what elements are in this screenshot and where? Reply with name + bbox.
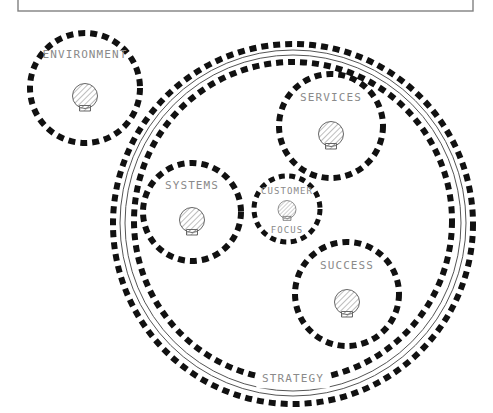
- strategy-venn-diagram: STRATEGY ENVIRONMENTSERVICESSYSTEMSCUSTO…: [0, 0, 493, 413]
- node-services[interactable]: SERVICES: [279, 74, 383, 178]
- node-success-label: SUCCESS: [320, 259, 374, 272]
- node-customer-focus[interactable]: CUSTOMERFOCUS: [254, 176, 320, 242]
- diagram-canvas: STRATEGY ENVIRONMENTSERVICESSYSTEMSCUSTO…: [0, 0, 493, 413]
- node-layer: ENVIRONMENTSERVICESSYSTEMSCUSTOMERFOCUSS…: [30, 33, 399, 346]
- node-services-label: SERVICES: [300, 91, 362, 104]
- node-customer-focus-label-line2: FOCUS: [271, 225, 304, 235]
- node-environment[interactable]: ENVIRONMENT: [30, 33, 140, 143]
- node-systems-label: SYSTEMS: [165, 179, 219, 192]
- node-success[interactable]: SUCCESS: [295, 242, 399, 346]
- slide-border: [18, 0, 473, 11]
- strategy-label: STRATEGY: [262, 372, 324, 385]
- node-systems[interactable]: SYSTEMS: [143, 163, 241, 261]
- node-customer-focus-label: CUSTOMER: [261, 186, 313, 196]
- node-environment-label: ENVIRONMENT: [43, 48, 128, 61]
